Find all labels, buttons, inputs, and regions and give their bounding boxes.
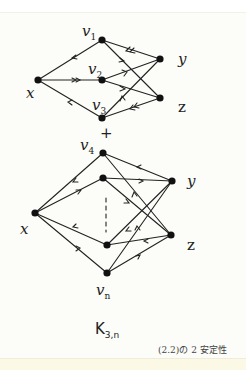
arrow-icon [68, 100, 72, 105]
caption: (2.2)の 2 安定性 [158, 343, 227, 356]
edge-v5-y [103, 178, 172, 181]
arrow-icon [137, 165, 141, 169]
edge-v1-y [102, 40, 160, 59]
edge-v2-y [102, 59, 160, 80]
vertex-z-bottom [167, 231, 174, 238]
label-v4: v4 [80, 138, 94, 156]
edge-vn1-z [107, 235, 171, 245]
label-vn: vn [96, 283, 110, 301]
edge-x-vn [35, 213, 107, 273]
arrow-icon [126, 227, 131, 231]
label-v1: v1 [82, 24, 96, 42]
vertex-v5 [99, 174, 106, 181]
label-x-bottom: x [20, 222, 28, 237]
label-y-top: y [178, 52, 186, 67]
double-arrow-icon [130, 103, 139, 110]
arrow-icon [136, 255, 140, 259]
vertex-v4 [99, 149, 106, 156]
label-x-top: x [26, 86, 34, 101]
edge-vn1-y [107, 181, 172, 245]
graph-name: K3,n [95, 320, 119, 340]
label-z-top: z [178, 100, 186, 115]
label-y-bottom: y [187, 174, 195, 189]
vertex-y-top [156, 55, 163, 62]
vertex-vn [103, 269, 110, 276]
edge-vn-z [107, 235, 171, 273]
arrow-icon [120, 96, 125, 101]
vertex-v1 [98, 36, 105, 43]
vertex-z-top [156, 94, 163, 101]
edge-v4-z [103, 153, 171, 235]
label-v2: v2 [88, 62, 102, 80]
edge-x-vn1 [35, 213, 107, 245]
plus-sign: + [100, 126, 113, 141]
bottom-strip [0, 358, 246, 370]
vertex-vn1 [103, 241, 110, 248]
vertex-x-top [34, 76, 41, 83]
label-z-bottom: z [187, 238, 195, 253]
vertex-y-bottom [168, 177, 175, 184]
label-v3: v3 [92, 98, 106, 116]
arrow-icon [73, 224, 78, 228]
vertex-x-bottom [31, 209, 38, 216]
